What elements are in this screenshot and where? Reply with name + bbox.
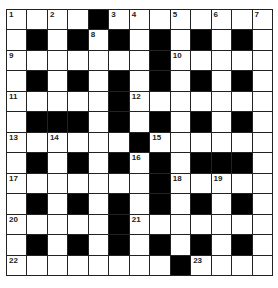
crossword-cell[interactable] — [191, 133, 210, 152]
crossword-cell[interactable] — [27, 51, 46, 70]
crossword-cell[interactable]: 7 — [253, 10, 272, 29]
crossword-cell[interactable] — [130, 174, 149, 193]
crossword-cell[interactable] — [68, 215, 87, 234]
crossword-cell[interactable] — [150, 10, 169, 29]
crossword-cell[interactable] — [171, 133, 190, 152]
crossword-cell[interactable] — [191, 215, 210, 234]
crossword-cell[interactable] — [253, 194, 272, 213]
crossword-cell[interactable] — [191, 174, 210, 193]
crossword-cell[interactable] — [232, 215, 251, 234]
crossword-cell[interactable] — [212, 30, 231, 49]
crossword-cell[interactable] — [89, 256, 108, 275]
crossword-cell[interactable] — [171, 194, 190, 213]
crossword-cell[interactable] — [253, 256, 272, 275]
crossword-cell[interactable] — [232, 133, 251, 152]
crossword-cell[interactable] — [27, 92, 46, 111]
crossword-cell[interactable] — [253, 215, 272, 234]
crossword-cell[interactable]: 14 — [48, 133, 67, 152]
crossword-cell[interactable] — [27, 174, 46, 193]
crossword-cell[interactable] — [7, 71, 26, 90]
crossword-cell[interactable] — [232, 92, 251, 111]
crossword-cell[interactable] — [68, 174, 87, 193]
crossword-cell[interactable] — [7, 153, 26, 172]
crossword-cell[interactable]: 23 — [191, 256, 210, 275]
crossword-cell[interactable] — [253, 174, 272, 193]
crossword-cell[interactable] — [7, 112, 26, 131]
crossword-cell[interactable] — [89, 51, 108, 70]
crossword-cell[interactable] — [130, 112, 149, 131]
crossword-cell[interactable] — [212, 256, 231, 275]
crossword-cell[interactable] — [171, 112, 190, 131]
crossword-cell[interactable] — [68, 256, 87, 275]
crossword-cell[interactable] — [48, 153, 67, 172]
crossword-cell[interactable]: 22 — [7, 256, 26, 275]
crossword-cell[interactable] — [48, 30, 67, 49]
crossword-cell[interactable] — [7, 30, 26, 49]
crossword-cell[interactable] — [68, 92, 87, 111]
crossword-cell[interactable] — [150, 215, 169, 234]
crossword-cell[interactable] — [89, 112, 108, 131]
crossword-cell[interactable] — [212, 133, 231, 152]
crossword-cell[interactable] — [68, 51, 87, 70]
crossword-cell[interactable] — [130, 256, 149, 275]
crossword-cell[interactable] — [7, 235, 26, 254]
crossword-cell[interactable]: 3 — [109, 10, 128, 29]
crossword-cell[interactable] — [212, 112, 231, 131]
crossword-cell[interactable] — [48, 71, 67, 90]
crossword-cell[interactable] — [89, 194, 108, 213]
crossword-cell[interactable] — [109, 133, 128, 152]
crossword-cell[interactable] — [212, 51, 231, 70]
crossword-cell[interactable] — [130, 51, 149, 70]
crossword-cell[interactable] — [48, 235, 67, 254]
crossword-cell[interactable] — [253, 30, 272, 49]
crossword-cell[interactable]: 19 — [212, 174, 231, 193]
crossword-cell[interactable] — [27, 133, 46, 152]
crossword-cell[interactable] — [7, 194, 26, 213]
crossword-cell[interactable] — [68, 133, 87, 152]
crossword-cell[interactable] — [89, 235, 108, 254]
crossword-cell[interactable] — [89, 215, 108, 234]
crossword-cell[interactable] — [212, 215, 231, 234]
crossword-cell[interactable] — [27, 256, 46, 275]
crossword-cell[interactable] — [212, 194, 231, 213]
crossword-cell[interactable] — [109, 174, 128, 193]
crossword-cell[interactable] — [48, 51, 67, 70]
crossword-cell[interactable] — [89, 174, 108, 193]
crossword-cell[interactable] — [253, 51, 272, 70]
crossword-cell[interactable] — [130, 194, 149, 213]
crossword-cell[interactable] — [253, 71, 272, 90]
crossword-cell[interactable] — [89, 153, 108, 172]
crossword-cell[interactable] — [232, 256, 251, 275]
crossword-cell[interactable]: 8 — [89, 30, 108, 49]
crossword-cell[interactable] — [109, 256, 128, 275]
crossword-cell[interactable]: 2 — [48, 10, 67, 29]
crossword-cell[interactable] — [150, 92, 169, 111]
crossword-cell[interactable] — [171, 153, 190, 172]
crossword-cell[interactable] — [89, 133, 108, 152]
crossword-cell[interactable] — [68, 10, 87, 29]
crossword-cell[interactable] — [232, 174, 251, 193]
crossword-cell[interactable] — [171, 92, 190, 111]
crossword-cell[interactable]: 21 — [130, 215, 149, 234]
crossword-cell[interactable] — [109, 51, 128, 70]
crossword-cell[interactable] — [150, 256, 169, 275]
crossword-cell[interactable] — [171, 235, 190, 254]
crossword-cell[interactable] — [253, 235, 272, 254]
crossword-cell[interactable]: 4 — [130, 10, 149, 29]
crossword-cell[interactable]: 1 — [7, 10, 26, 29]
crossword-cell[interactable] — [130, 235, 149, 254]
crossword-cell[interactable] — [48, 174, 67, 193]
crossword-cell[interactable] — [253, 112, 272, 131]
crossword-cell[interactable] — [212, 235, 231, 254]
crossword-cell[interactable]: 6 — [212, 10, 231, 29]
crossword-cell[interactable] — [191, 92, 210, 111]
crossword-cell[interactable] — [212, 71, 231, 90]
crossword-cell[interactable]: 16 — [130, 153, 149, 172]
crossword-cell[interactable] — [232, 51, 251, 70]
crossword-cell[interactable] — [191, 51, 210, 70]
crossword-cell[interactable] — [27, 10, 46, 29]
crossword-cell[interactable]: 17 — [7, 174, 26, 193]
crossword-cell[interactable]: 15 — [150, 133, 169, 152]
crossword-cell[interactable] — [253, 153, 272, 172]
crossword-cell[interactable] — [48, 256, 67, 275]
